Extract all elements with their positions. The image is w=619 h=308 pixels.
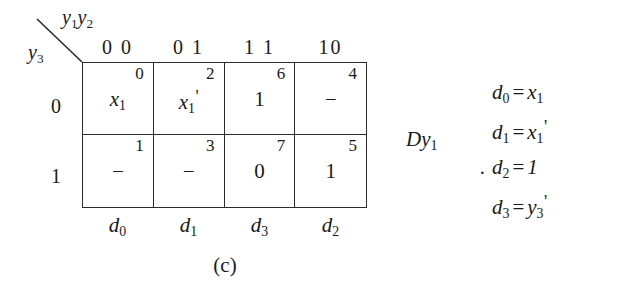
kmap-cell-7[interactable]: 7 0 xyxy=(225,135,296,207)
column-header-00: 0 0 xyxy=(82,36,153,59)
equation-d1: d1=x1' xyxy=(492,113,547,153)
footer-label-d2: d2 xyxy=(295,213,366,240)
figure-caption: (c) xyxy=(185,253,265,278)
kmap-grid: 0 x1 2 x1' 6 1 4 – 1 – 3 – 7 0 5 xyxy=(82,62,367,208)
equation-list: d0=x1 d1=x1' d2=1 d3=y3' xyxy=(492,78,547,228)
footer-label-d0: d0 xyxy=(82,213,153,240)
minterm-index: 3 xyxy=(206,136,215,156)
minterm-index: 6 xyxy=(277,64,286,84)
equation-bullet-dot: · xyxy=(479,163,486,183)
cell-value: – xyxy=(295,87,366,109)
column-header-01: 0 1 xyxy=(153,36,224,59)
minterm-index: 5 xyxy=(349,136,358,156)
equation-d2: d2=1 xyxy=(492,153,547,188)
kmap-cell-2[interactable]: 2 x1' xyxy=(154,63,225,135)
kmap-cell-4[interactable]: 4 – xyxy=(295,63,366,135)
kmap-cell-5[interactable]: 5 1 xyxy=(295,135,366,207)
minterm-index: 0 xyxy=(135,64,144,84)
kmap-cell-1[interactable]: 1 – xyxy=(83,135,154,207)
row-header-1: 1 xyxy=(44,165,68,188)
kmap-cell-0[interactable]: 0 x1 xyxy=(83,63,154,135)
kmap-cell-3[interactable]: 3 – xyxy=(154,135,225,207)
output-function-label: Dy1 xyxy=(406,127,437,154)
footer-label-d3: d3 xyxy=(224,213,295,240)
minterm-index: 1 xyxy=(135,136,144,156)
prime-mark: ' xyxy=(195,87,198,107)
footer-label-d1: d1 xyxy=(153,213,224,240)
cell-value: x1 xyxy=(83,87,153,114)
row-header-0: 0 xyxy=(44,95,68,118)
cell-value: x1' xyxy=(154,87,224,117)
column-variables-label: y1y2 xyxy=(62,6,93,32)
row-variable-label: y3 xyxy=(28,41,43,67)
column-header-11: 1 1 xyxy=(224,36,295,59)
equation-d3: d3=y3' xyxy=(492,188,547,228)
cell-value: 0 xyxy=(225,159,295,184)
cell-value: 1 xyxy=(225,87,295,112)
prime-mark: ' xyxy=(544,192,547,212)
prime-mark: ' xyxy=(544,117,547,137)
minterm-index: 4 xyxy=(349,64,358,84)
cell-value: 1 xyxy=(295,159,366,184)
kmap-figure: y1y2 y3 0 0 0 1 1 1 10 0 1 0 x1 2 x1' 6 … xyxy=(0,0,619,308)
equation-d0: d0=x1 xyxy=(492,78,547,113)
minterm-index: 7 xyxy=(277,136,286,156)
cell-value: – xyxy=(83,159,153,181)
minterm-index: 2 xyxy=(206,64,215,84)
kmap-cell-6[interactable]: 6 1 xyxy=(225,63,296,135)
column-header-10: 10 xyxy=(295,36,366,59)
cell-value: – xyxy=(154,159,224,181)
